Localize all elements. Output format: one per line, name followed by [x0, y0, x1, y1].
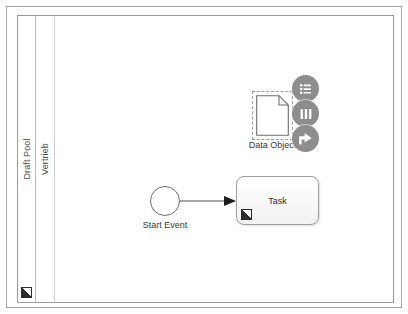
lane-label: Vertrieb — [40, 143, 50, 175]
columns-icon[interactable] — [292, 100, 319, 127]
sequence-flow-connection[interactable] — [180, 193, 238, 209]
edit-marker-icon — [21, 287, 32, 298]
edit-marker-icon — [241, 209, 252, 220]
task-label: Task — [237, 196, 318, 206]
data-object-shape[interactable]: Data Object — [256, 95, 289, 136]
editor-frame: Draft Pool Vertrieb Start Event — [6, 6, 402, 308]
start-event-label: Start Event — [143, 220, 188, 230]
pool-label: Draft Pool — [22, 138, 32, 179]
pool-draft-pool[interactable]: Draft Pool Vertrieb Start Event — [17, 15, 394, 303]
start-event-circle[interactable] — [150, 186, 180, 216]
lane-vertrieb[interactable]: Vertrieb Start Event Task — [36, 16, 393, 302]
pool-header[interactable]: Draft Pool — [18, 16, 36, 302]
context-pad[interactable] — [292, 75, 322, 150]
diagram-canvas[interactable]: Draft Pool Vertrieb Start Event — [7, 7, 401, 307]
start-event-shape[interactable]: Start Event — [150, 186, 180, 216]
document-folded-corner-icon — [256, 95, 289, 136]
task-shape[interactable]: Task — [236, 176, 319, 225]
share-arrow-icon[interactable] — [292, 125, 319, 152]
list-menu-icon[interactable] — [292, 75, 319, 102]
data-object-label: Data Object — [249, 140, 297, 150]
lane-header[interactable]: Vertrieb — [36, 16, 55, 302]
sequence-flow-arrowhead — [224, 196, 236, 206]
lane-body[interactable]: Start Event Task — [55, 16, 393, 302]
